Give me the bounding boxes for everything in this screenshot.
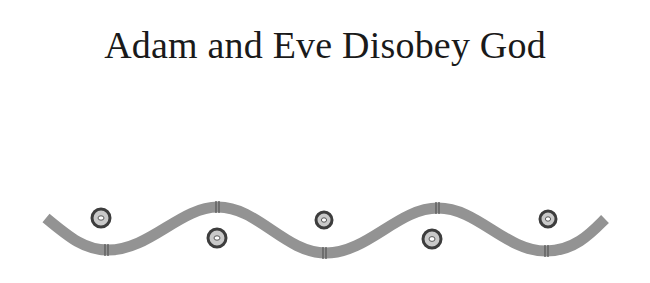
ornament-dot: [208, 229, 226, 247]
wavy-ornament-divider: [0, 0, 650, 283]
ornament-dot: [540, 211, 556, 227]
ornament-dot: [423, 230, 441, 248]
ornament-dot: [316, 212, 332, 228]
ornament-dot: [92, 209, 110, 227]
